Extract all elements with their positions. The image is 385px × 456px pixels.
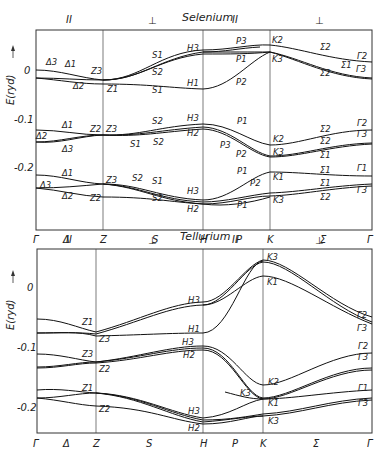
svg-text:K: K bbox=[267, 234, 275, 245]
svg-text:-0.2: -0.2 bbox=[14, 162, 34, 173]
svg-text:H2: H2 bbox=[183, 350, 195, 360]
svg-text:Σ2: Σ2 bbox=[320, 42, 331, 52]
svg-text:Δ1: Δ1 bbox=[61, 168, 73, 178]
parallel-label: II bbox=[66, 14, 72, 25]
svg-text:Σ2: Σ2 bbox=[320, 68, 331, 78]
svg-text:Γ3: Γ3 bbox=[357, 129, 367, 139]
svg-text:Δ1: Δ1 bbox=[61, 120, 73, 130]
svg-text:-0.1: -0.1 bbox=[14, 114, 34, 125]
svg-text:H: H bbox=[200, 438, 208, 449]
svg-text:Σ1: Σ1 bbox=[320, 150, 331, 160]
svg-text:Γ1: Γ1 bbox=[358, 383, 368, 393]
svg-text:K1: K1 bbox=[268, 398, 279, 408]
svg-text:Γ3: Γ3 bbox=[356, 64, 366, 74]
svg-text:⊥: ⊥ bbox=[315, 235, 324, 246]
svg-text:Γ3: Γ3 bbox=[357, 323, 367, 333]
svg-text:S1: S1 bbox=[130, 139, 141, 149]
svg-text:P1: P1 bbox=[236, 54, 247, 64]
svg-text:Γ3: Γ3 bbox=[358, 398, 368, 408]
svg-text:Δ: Δ bbox=[62, 438, 70, 449]
tellurium-panel: II ⊥ Tellurium II ⊥ E(ryd) 0 -0.1 -0.2 Z… bbox=[5, 230, 374, 449]
tellurium-title: Tellurium bbox=[180, 230, 230, 243]
svg-text:S2: S2 bbox=[152, 116, 163, 126]
svg-text:K3: K3 bbox=[272, 54, 283, 64]
selenium-panel: II ⊥ Selenium II ⊥ E(ryd) 0 -0.1 -0.2 bbox=[5, 11, 374, 245]
svg-text:Δ2: Δ2 bbox=[72, 81, 84, 91]
svg-text:Δ3: Δ3 bbox=[39, 180, 51, 190]
svg-text:-0.1: -0.1 bbox=[17, 342, 37, 353]
svg-text:S2: S2 bbox=[153, 137, 164, 147]
svg-text:H3: H3 bbox=[187, 186, 199, 196]
svg-text:H3: H3 bbox=[182, 337, 194, 347]
svg-text:H2: H2 bbox=[188, 423, 200, 433]
svg-text:Z2: Z2 bbox=[89, 193, 101, 203]
svg-text:P1: P1 bbox=[237, 116, 248, 126]
svg-text:S1: S1 bbox=[152, 176, 163, 186]
svg-text:Γ: Γ bbox=[367, 234, 374, 245]
svg-text:Γ3: Γ3 bbox=[357, 185, 367, 195]
svg-text:Z3: Z3 bbox=[90, 66, 102, 76]
svg-text:Γ1: Γ1 bbox=[357, 163, 367, 173]
svg-text:S: S bbox=[146, 438, 153, 449]
y-axis-label: E(ryd) bbox=[5, 75, 16, 106]
svg-text:Σ1: Σ1 bbox=[320, 165, 331, 175]
svg-text:Z3: Z3 bbox=[105, 175, 117, 185]
svg-text:S2: S2 bbox=[152, 193, 163, 203]
svg-text:K: K bbox=[260, 438, 268, 449]
svg-text:P2: P2 bbox=[250, 178, 261, 188]
svg-text:H3: H3 bbox=[188, 406, 200, 416]
perp-label: ⊥ bbox=[148, 15, 157, 26]
svg-text:Z3: Z3 bbox=[105, 124, 117, 134]
svg-text:Γ3: Γ3 bbox=[358, 352, 368, 362]
perp-label: ⊥ bbox=[315, 15, 324, 26]
svg-text:S1: S1 bbox=[152, 85, 163, 95]
svg-text:Z2: Z2 bbox=[89, 124, 101, 134]
svg-text:II: II bbox=[66, 234, 72, 245]
svg-text:II: II bbox=[232, 234, 238, 245]
svg-text:K3: K3 bbox=[268, 416, 279, 426]
svg-text:K3: K3 bbox=[240, 388, 251, 398]
svg-text:Γ2: Γ2 bbox=[357, 118, 367, 128]
svg-text:Σ2: Σ2 bbox=[320, 124, 331, 134]
svg-text:K2: K2 bbox=[268, 377, 279, 387]
svg-text:K2: K2 bbox=[273, 134, 284, 144]
svg-text:S1: S1 bbox=[152, 50, 163, 60]
svg-text:Σ1: Σ1 bbox=[341, 60, 352, 70]
svg-text:0: 0 bbox=[24, 65, 30, 76]
svg-text:S2: S2 bbox=[152, 67, 163, 77]
svg-text:Γ2: Γ2 bbox=[358, 341, 368, 351]
svg-text:H1: H1 bbox=[187, 78, 199, 88]
svg-text:K2: K2 bbox=[272, 35, 283, 45]
svg-text:Z: Z bbox=[99, 234, 108, 245]
svg-text:Γ: Γ bbox=[33, 234, 40, 245]
svg-text:P: P bbox=[232, 438, 239, 449]
svg-text:P1: P1 bbox=[237, 166, 248, 176]
svg-text:Z1: Z1 bbox=[81, 383, 93, 393]
svg-text:Γ: Γ bbox=[33, 438, 40, 449]
svg-text:Z: Z bbox=[92, 438, 101, 449]
svg-text:K1: K1 bbox=[273, 172, 284, 182]
svg-text:⊥: ⊥ bbox=[148, 235, 157, 246]
svg-text:P2: P2 bbox=[236, 77, 247, 87]
svg-text:Z1: Z1 bbox=[81, 317, 93, 327]
svg-text:K3: K3 bbox=[273, 147, 284, 157]
svg-text:Σ: Σ bbox=[313, 438, 320, 449]
svg-text:Δ1: Δ1 bbox=[64, 59, 76, 69]
svg-text:P3: P3 bbox=[220, 140, 231, 150]
svg-text:H2: H2 bbox=[187, 204, 199, 214]
svg-text:P3: P3 bbox=[236, 36, 247, 46]
svg-text:Δ3: Δ3 bbox=[61, 144, 73, 154]
svg-text:Z3: Z3 bbox=[98, 334, 110, 344]
svg-text:P1: P1 bbox=[237, 200, 248, 210]
svg-text:S2: S2 bbox=[132, 173, 143, 183]
svg-text:Z3: Z3 bbox=[81, 349, 93, 359]
svg-text:Γ2: Γ2 bbox=[357, 51, 367, 61]
x-axis-labels: Γ Δ Z S H P K Σ Γ bbox=[33, 438, 374, 449]
svg-text:Z1: Z1 bbox=[106, 84, 118, 94]
svg-text:K3: K3 bbox=[273, 195, 284, 205]
svg-text:H3: H3 bbox=[187, 43, 199, 53]
parallel-label: II bbox=[232, 14, 238, 25]
svg-text:Z2: Z2 bbox=[98, 404, 110, 414]
svg-text:H3: H3 bbox=[188, 295, 200, 305]
svg-text:Γ2: Γ2 bbox=[357, 310, 367, 320]
